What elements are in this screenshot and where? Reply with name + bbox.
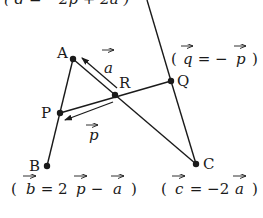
equation-q-open: ( — [171, 50, 177, 68]
equation-c-var2: a — [235, 180, 244, 198]
label-vec-p: p — [89, 126, 99, 144]
equation-b-var3: a — [113, 180, 122, 198]
equation-b-var: b — [26, 180, 36, 198]
equation-c-var: c — [175, 180, 184, 198]
equation-q-var: q — [183, 50, 193, 68]
points — [44, 56, 199, 169]
equation-c: ( c = −2 a ) — [161, 176, 258, 198]
equation-b: ( b = 2 p − a ) — [11, 176, 137, 198]
equation-q-close: ) — [252, 50, 258, 68]
equation-b-open: ( — [11, 180, 17, 198]
point-q — [168, 78, 174, 84]
segment-qc — [171, 81, 196, 164]
point-p — [57, 110, 63, 116]
point-c — [193, 161, 199, 167]
equation-d: ( d = −2p + 2a ) — [4, 0, 129, 8]
vector-diagram: A B C P Q R a p ( d = −2p + 2a ) ( q = −… — [0, 0, 263, 218]
equation-q: ( q = − p ) — [171, 46, 258, 68]
vector-labels: a p — [86, 50, 114, 144]
equation-b-var2: p — [76, 180, 86, 198]
equation-q-var2: p — [236, 50, 246, 68]
point-b — [44, 163, 50, 169]
equation-b-mid2: − — [86, 180, 108, 198]
point-r — [112, 92, 118, 98]
label-vec-a: a — [104, 59, 113, 77]
equation-b-mid: = 2 — [36, 180, 72, 198]
segment-q-top — [147, 0, 171, 81]
equation-c-close: ) — [252, 180, 258, 198]
equation-d-text: ( d = −2p + 2a ) — [4, 0, 129, 8]
point-a — [70, 56, 76, 62]
label-p: P — [41, 104, 51, 122]
label-a: A — [56, 44, 68, 62]
label-c: C — [203, 155, 214, 173]
label-b: B — [29, 157, 40, 175]
label-r: R — [119, 74, 131, 92]
equation-c-open: ( — [161, 180, 167, 198]
equation-q-mid: = − — [193, 50, 232, 68]
equation-b-close: ) — [131, 180, 137, 198]
equation-c-mid: = −2 — [185, 180, 234, 198]
label-q: Q — [177, 72, 189, 90]
